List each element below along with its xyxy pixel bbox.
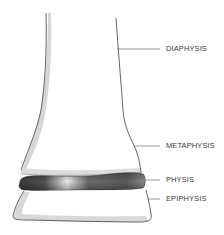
epiphysis [13,190,151,222]
label-diaphysis: DIAPHYSIS [166,44,207,53]
label-epiphysis: EPIPHYSIS [166,194,207,203]
shaft [20,13,142,177]
label-physis: PHYSIS [166,175,194,184]
label-metaphysis: METAPHYSIS [166,141,215,150]
